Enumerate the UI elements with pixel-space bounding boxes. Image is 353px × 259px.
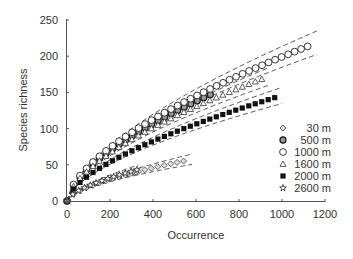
legend-item: 1000 m bbox=[280, 146, 331, 158]
triangle-open-marker-icon bbox=[220, 92, 226, 97]
rarefaction-chart: 050100150200250 020040060080010001200 Oc… bbox=[0, 0, 353, 259]
circle-open-marker-icon bbox=[200, 89, 207, 96]
star-open-marker-icon bbox=[280, 185, 287, 191]
triangle-open-marker-icon bbox=[207, 97, 213, 102]
legend-label: 1600 m bbox=[294, 158, 331, 170]
triangle-open-marker-icon bbox=[213, 95, 219, 100]
circle-open-marker-icon bbox=[213, 82, 220, 89]
circle-open-marker-icon bbox=[298, 46, 305, 53]
legend-item: 500 m bbox=[280, 134, 331, 146]
circle-open-marker-icon bbox=[280, 149, 287, 156]
y-tick-label: 50 bbox=[46, 159, 58, 171]
circle-open-marker-icon bbox=[239, 70, 246, 77]
legend-label: 2600 m bbox=[294, 182, 331, 194]
legend-item: 2600 m bbox=[280, 182, 331, 194]
circle-open-marker-icon bbox=[155, 113, 162, 120]
square-filled-marker-icon bbox=[220, 112, 225, 117]
circle-open-marker-icon bbox=[220, 79, 227, 86]
square-filled-marker-icon bbox=[188, 124, 193, 129]
circle-open-marker-icon bbox=[135, 125, 142, 132]
square-filled-marker-icon bbox=[227, 110, 232, 115]
triangle-open-marker-icon bbox=[239, 84, 245, 89]
square-filled-marker-icon bbox=[233, 108, 238, 113]
x-tick-label: 200 bbox=[101, 208, 119, 220]
square-filled-marker-icon bbox=[194, 121, 199, 126]
square-filled-marker-icon bbox=[90, 170, 95, 175]
square-filled-marker-icon bbox=[129, 148, 134, 153]
legend-label: 30 m bbox=[307, 122, 331, 134]
circle-open-marker-icon bbox=[233, 73, 240, 80]
circle-open-marker-icon bbox=[187, 95, 194, 102]
square-filled-marker-icon bbox=[71, 186, 76, 191]
square-filled-marker-icon bbox=[259, 99, 264, 104]
triangle-open-marker-icon bbox=[200, 100, 206, 105]
y-tick-label: 250 bbox=[40, 14, 58, 26]
legend: 30 m500 m1000 m1600 m2000 m2600 m bbox=[280, 122, 331, 194]
square-filled-marker-icon bbox=[214, 114, 219, 119]
triangle-open-marker-icon bbox=[252, 79, 258, 84]
circle-open-marker-icon bbox=[116, 138, 123, 145]
axes bbox=[67, 19, 326, 202]
circle-open-marker-icon bbox=[265, 59, 272, 66]
circle-open-marker-icon bbox=[252, 65, 259, 72]
square-filled-marker-icon bbox=[155, 137, 160, 142]
square-filled-marker-icon bbox=[136, 145, 141, 150]
x-tick-label: 1000 bbox=[270, 208, 294, 220]
diamond-marker-icon bbox=[174, 159, 180, 165]
triangle-open-marker-icon bbox=[226, 89, 232, 94]
square-filled-marker-icon bbox=[280, 173, 285, 178]
diamond-marker-icon bbox=[142, 167, 148, 173]
circle-open-marker-icon bbox=[129, 129, 136, 136]
square-filled-marker-icon bbox=[84, 175, 89, 180]
square-filled-marker-icon bbox=[253, 101, 258, 106]
legend-item: 30 m bbox=[280, 122, 331, 134]
y-tick-label: 0 bbox=[52, 195, 58, 207]
square-filled-marker-icon bbox=[181, 126, 186, 131]
square-filled-marker-icon bbox=[240, 105, 245, 110]
y-tick-label: 150 bbox=[40, 86, 58, 98]
square-filled-marker-icon bbox=[207, 116, 212, 121]
circle-open-marker-icon bbox=[181, 99, 188, 106]
square-filled-marker-icon bbox=[116, 155, 121, 160]
circle-open-marker-icon bbox=[122, 133, 129, 140]
diamond-marker-icon bbox=[148, 165, 154, 171]
x-tick-label: 1200 bbox=[313, 208, 337, 220]
y-axis-label: Species richness bbox=[17, 68, 29, 152]
square-filled-marker-icon bbox=[77, 180, 82, 185]
legend-item: 1600 m bbox=[280, 158, 331, 170]
triangle-open-marker-icon bbox=[280, 161, 286, 166]
circle-open-marker-icon bbox=[246, 68, 253, 75]
circle-open-marker-icon bbox=[278, 54, 285, 61]
x-tick-label: 600 bbox=[187, 208, 205, 220]
x-tick-label: 800 bbox=[230, 208, 248, 220]
square-filled-marker-icon bbox=[110, 158, 115, 163]
circle-open-marker-icon bbox=[285, 51, 292, 58]
y-tick-label: 100 bbox=[40, 123, 58, 135]
diamond-marker-icon bbox=[181, 158, 187, 164]
circle-open-marker-icon bbox=[226, 76, 233, 83]
x-tick-label: 400 bbox=[144, 208, 162, 220]
circle-open-marker-icon bbox=[194, 92, 201, 99]
square-filled-marker-icon bbox=[142, 142, 147, 147]
circle-open-marker-icon bbox=[207, 86, 214, 93]
square-filled-marker-icon bbox=[175, 129, 180, 134]
circle-open-marker-icon bbox=[304, 43, 311, 50]
circle-open-marker-icon bbox=[148, 117, 155, 124]
x-ticks: 020040060080010001200 bbox=[64, 199, 337, 220]
legend-label: 500 m bbox=[300, 134, 331, 146]
square-filled-marker-icon bbox=[103, 162, 108, 167]
square-filled-marker-icon bbox=[246, 103, 251, 108]
diamond-marker-icon bbox=[161, 162, 167, 168]
square-filled-marker-icon bbox=[97, 166, 102, 171]
square-filled-marker-icon bbox=[201, 119, 206, 124]
diamond-marker-icon bbox=[168, 161, 174, 167]
y-tick-label: 200 bbox=[40, 50, 58, 62]
legend-label: 1000 m bbox=[294, 146, 331, 158]
circle-open-marker-icon bbox=[291, 48, 298, 55]
legend-label: 2000 m bbox=[294, 170, 331, 182]
x-tick-label: 0 bbox=[64, 208, 70, 220]
triangle-open-marker-icon bbox=[246, 81, 252, 86]
y-ticks: 050100150200250 bbox=[40, 14, 69, 207]
circle-open-marker-icon bbox=[168, 106, 175, 113]
square-filled-marker-icon bbox=[162, 134, 167, 139]
